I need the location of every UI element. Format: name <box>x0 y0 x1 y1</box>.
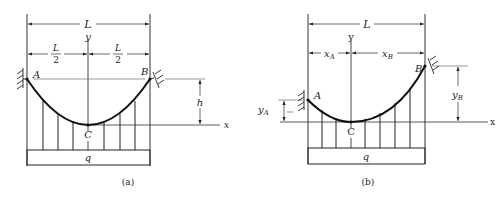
caption-b: (b) <box>362 177 375 187</box>
sag-label: h <box>197 97 203 108</box>
support-a-label: A <box>32 69 40 80</box>
load-label: q <box>85 152 91 163</box>
svg-text:2: 2 <box>53 55 59 65</box>
svg-text:xB: xB <box>382 48 393 61</box>
svg-text:y: y <box>347 31 354 42</box>
support-left-icon <box>298 90 304 111</box>
half-span-dimensions: L 2 L 2 <box>28 43 149 65</box>
cable-diagram: L y L 2 L 2 x h <box>0 0 501 203</box>
low-point-label: C <box>84 129 92 140</box>
span-dimension: L <box>28 18 149 31</box>
panel-b: L y xA xB x yA yB <box>257 14 495 187</box>
yb-dimension: yB <box>451 67 463 121</box>
svg-text:L: L <box>362 18 370 31</box>
caption-a: (a) <box>122 177 134 187</box>
support-right-icon <box>150 70 164 88</box>
support-right-icon <box>428 56 439 74</box>
svg-text:L: L <box>114 43 121 53</box>
svg-text:C: C <box>347 126 355 137</box>
svg-text:xA: xA <box>324 48 335 61</box>
panel-a: L y L 2 L 2 x h <box>17 14 229 187</box>
offset-dimensions: xA xB <box>309 48 424 61</box>
cable <box>27 79 150 125</box>
low-point-c <box>86 123 89 126</box>
svg-text:L: L <box>52 43 59 53</box>
support-b-label: B <box>140 66 148 77</box>
svg-text:q: q <box>363 151 369 162</box>
x-axis-label: x <box>224 120 229 130</box>
svg-text:yA: yA <box>257 104 269 117</box>
y-axis-label: y <box>84 31 91 42</box>
svg-text:A: A <box>313 90 321 101</box>
svg-text:x: x <box>490 117 495 127</box>
svg-text:2: 2 <box>115 55 121 65</box>
span-dimension: L <box>309 18 424 31</box>
svg-text:B: B <box>414 63 422 74</box>
cable <box>308 66 425 122</box>
span-label: L <box>83 18 91 31</box>
sag-dimension: h <box>197 80 203 124</box>
svg-text:yB: yB <box>451 89 463 102</box>
ya-dimension: yA <box>257 101 293 121</box>
